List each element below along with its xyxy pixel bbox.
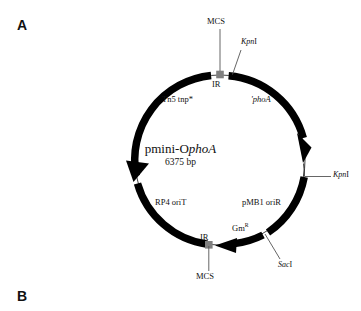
label-mcs-bottom: MCS xyxy=(196,272,214,281)
feature-arc-phoa xyxy=(229,76,304,138)
saci-roman-part: I xyxy=(290,260,293,269)
plasmid-size: 6375 bp xyxy=(0,157,361,167)
label-gm-resistance: GmR xyxy=(232,224,249,233)
figure-root: A B xyxy=(0,0,361,311)
gm-resistance-base: Gm xyxy=(232,223,245,233)
label-ir-bottom: IR xyxy=(200,233,209,242)
plasmid-name-italic: phoA xyxy=(189,141,216,156)
feature-arc-gm-resistance xyxy=(235,235,264,244)
label-rp4-orit: RP4 oriT xyxy=(155,198,186,207)
label-pmb1-orir: pMB1 oriR xyxy=(242,198,281,207)
saci-italic-part: Sac xyxy=(278,260,290,269)
feature-arc-rp4-orit xyxy=(138,184,208,245)
label-kpni-right: KpnI xyxy=(333,171,349,179)
plasmid-name: pmini-OphoA xyxy=(0,141,361,157)
plasmid-name-plain: pmini-O xyxy=(145,141,189,156)
kpni-top-italic-part: Kpn xyxy=(241,37,254,46)
leader-line-kpni-top xyxy=(233,50,242,75)
label-mcs-top: MCS xyxy=(207,17,225,26)
label-saci-bottom: SacI xyxy=(278,261,292,269)
kpni-right-italic-part: Kpn xyxy=(333,170,346,179)
ir-element-box-top xyxy=(216,71,224,79)
feature-arrowhead-gm-resistance xyxy=(215,238,237,253)
kpni-right-roman-part: I xyxy=(346,170,349,179)
label-ir-top: IR xyxy=(212,80,221,89)
leader-line-saci-bottom xyxy=(265,234,280,259)
label-kpni-top: KpnI xyxy=(241,38,257,46)
kpni-top-roman-part: I xyxy=(254,37,257,46)
label-tn5-tnp: Tn5 tnp* xyxy=(162,95,193,104)
label-phoa: 'phoA xyxy=(251,95,271,104)
gm-resistance-superscript: R xyxy=(245,222,249,228)
